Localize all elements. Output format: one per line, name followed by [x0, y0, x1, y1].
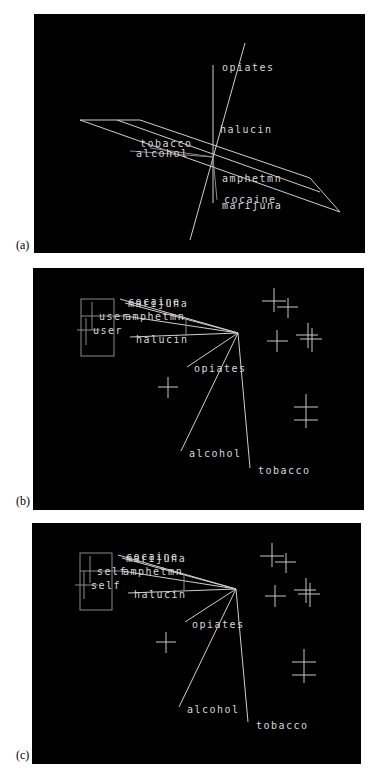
var-label: cocaine [126, 551, 179, 562]
var-label: amphetmn [123, 566, 183, 577]
loading-vectors [118, 555, 248, 722]
var-label: opiates [192, 619, 245, 630]
panel-c-plot: self self marijuna cocaine amphetmn halu… [0, 0, 373, 768]
var-label: alcohol [187, 704, 240, 715]
var-label: tobacco [256, 720, 309, 731]
var-label: halucin [134, 589, 187, 600]
group-label: self [91, 580, 121, 591]
